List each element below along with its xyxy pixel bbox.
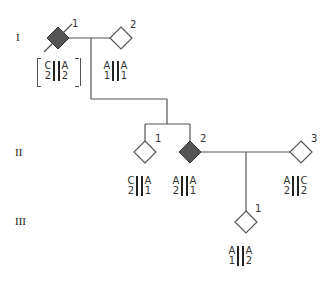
individual-I-2-number: 2 bbox=[130, 20, 136, 30]
individual-I-1-number: 1 bbox=[72, 19, 78, 29]
haplotype-II-1: C2 A1 bbox=[127, 176, 152, 196]
individual-II-3-number: 3 bbox=[311, 134, 317, 144]
individual-II-3-symbol bbox=[290, 141, 312, 163]
generation-label-I: I bbox=[16, 31, 20, 43]
haplotype-II-2: A2 A1 bbox=[172, 176, 197, 196]
haplotype-I-2: A1 A1 bbox=[103, 61, 128, 81]
bracket-tick bbox=[75, 86, 79, 87]
bracket-tick bbox=[75, 58, 79, 59]
haplotype-III-1: A1 A2 bbox=[228, 246, 253, 266]
haplotype-I-1: C2 A2 bbox=[44, 61, 69, 81]
individual-I-1-symbol bbox=[44, 24, 72, 52]
pedigree-lines bbox=[0, 0, 332, 285]
generation-label-II: II bbox=[15, 146, 22, 158]
individual-II-1-symbol bbox=[134, 141, 156, 163]
individual-III-1-symbol bbox=[235, 211, 257, 233]
individual-III-1-number: 1 bbox=[255, 204, 261, 214]
individual-I-2-symbol bbox=[110, 27, 132, 49]
individual-II-2-symbol bbox=[179, 141, 201, 163]
bracket-tick bbox=[37, 86, 41, 87]
bracket-tick bbox=[37, 58, 41, 59]
individual-II-2-number: 2 bbox=[200, 134, 206, 144]
haplotype-II-3: A2 C2 bbox=[283, 176, 308, 196]
individual-II-1-number: 1 bbox=[155, 134, 161, 144]
generation-label-III: III bbox=[15, 215, 26, 227]
